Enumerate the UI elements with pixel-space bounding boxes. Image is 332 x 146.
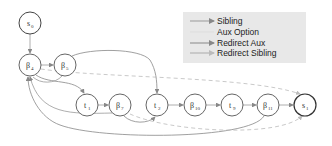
edge-b5-t2 (72, 50, 157, 93)
legend-label: Redirect Sibling (217, 48, 277, 58)
node-label: β (116, 101, 120, 110)
node-label: s (27, 19, 30, 28)
edge-b7-t2 (124, 116, 155, 122)
node-label: s (302, 101, 305, 110)
node-t1: t 1 (76, 94, 98, 116)
edge-b4-s1-dashed (41, 69, 300, 94)
node-b7: β 7 (109, 94, 131, 116)
edge-b7-b4 (30, 77, 112, 113)
legend-label: Sibling (217, 16, 243, 26)
node-subscript: 10 (195, 106, 201, 111)
state-diagram: Sibling Aux Option Redirect Aux Redirect… (0, 0, 332, 146)
node-s0: s 0 (19, 12, 41, 34)
legend-label: Aux Option (217, 27, 259, 37)
node-b4: β 4 (19, 54, 41, 76)
legend-label: Redirect Aux (217, 38, 266, 48)
node-label: β (26, 61, 30, 70)
node-b10: β 10 (184, 94, 206, 116)
node-b11: β 11 (257, 94, 279, 116)
node-label: β (263, 101, 267, 110)
node-label: β (61, 61, 65, 70)
node-subscript: 11 (268, 106, 273, 111)
node-label: β (190, 101, 194, 110)
node-t2: t 2 (146, 94, 168, 116)
node-s1: s 1 (294, 94, 316, 116)
node-b5: β 5 (54, 54, 76, 76)
legend: Sibling Aux Option Redirect Aux Redirect… (183, 12, 306, 63)
node-t9: t 9 (221, 94, 243, 116)
